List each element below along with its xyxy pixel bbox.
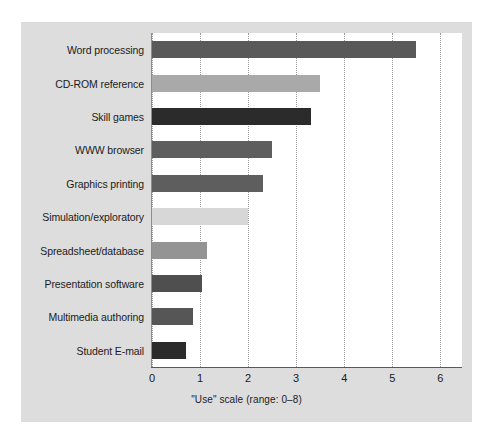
x-tick-label: 6: [425, 372, 455, 384]
category-label: Graphics printing: [14, 178, 144, 190]
category-label: Simulation/exploratory: [14, 211, 144, 223]
category-axis: Word processingCD-ROM referenceSkill gam…: [21, 33, 148, 367]
x-axis-line: [151, 367, 462, 368]
x-tick-label: 2: [233, 372, 263, 384]
gridline: [440, 33, 441, 367]
x-tick-label: 5: [377, 372, 407, 384]
bar: [152, 308, 193, 325]
category-label: Spreadsheet/database: [14, 245, 144, 257]
x-tick-label: 1: [185, 372, 215, 384]
bar: [152, 108, 311, 125]
chart-figure: Word processingCD-ROM referenceSkill gam…: [0, 0, 496, 446]
gridline: [392, 33, 393, 367]
bar-chart: Word processingCD-ROM referenceSkill gam…: [21, 22, 472, 422]
category-label: Student E-mail: [14, 345, 144, 357]
category-label: Word processing: [14, 44, 144, 56]
plot-inner: [152, 33, 462, 367]
bar: [152, 208, 248, 225]
bar: [152, 275, 202, 292]
x-tick-label: 4: [329, 372, 359, 384]
category-label: Skill games: [14, 111, 144, 123]
category-label: WWW browser: [14, 144, 144, 156]
x-tick-label: 3: [281, 372, 311, 384]
y-axis-line: [151, 33, 152, 367]
bar: [152, 342, 186, 359]
value-axis-ticks: 0123456: [152, 372, 462, 390]
category-label: CD-ROM reference: [14, 78, 144, 90]
category-label: Presentation software: [14, 278, 144, 290]
gridline: [344, 33, 345, 367]
category-label: Multimedia authoring: [14, 311, 144, 323]
bar: [152, 75, 320, 92]
bar: [152, 41, 416, 58]
x-tick-label: 0: [137, 372, 167, 384]
bar: [152, 242, 207, 259]
bar: [152, 141, 272, 158]
bar: [152, 175, 263, 192]
plot-area: [152, 33, 462, 367]
x-axis-title: "Use" scale (range: 0–8): [21, 394, 472, 405]
